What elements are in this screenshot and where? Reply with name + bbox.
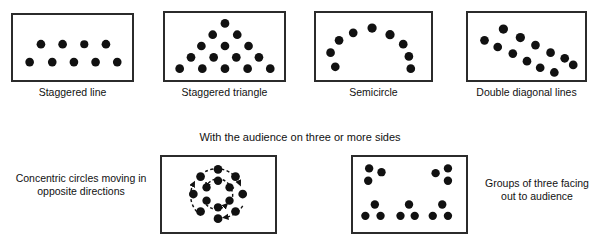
- dot: [361, 212, 369, 220]
- panel-concentric-circles: [160, 155, 277, 234]
- groups-of-three-diagram: [353, 157, 466, 232]
- dot: [231, 207, 240, 216]
- dot: [493, 43, 502, 52]
- caption-staggered-triangle: Staggered triangle: [163, 86, 286, 99]
- dot: [37, 40, 46, 49]
- dot: [523, 57, 532, 66]
- dot: [255, 53, 264, 62]
- figure-canvas: Staggered line: [0, 0, 599, 245]
- dot: [48, 58, 57, 67]
- dot: [196, 207, 205, 216]
- dot: [411, 212, 419, 220]
- staggered-triangle-diagram: [165, 13, 284, 80]
- caption-double-diagonal-lines: Double diagonal lines: [461, 86, 592, 99]
- dot: [371, 200, 379, 208]
- caption-staggered-line: Staggered line: [11, 86, 134, 99]
- dot: [209, 53, 218, 62]
- dot: [221, 19, 230, 28]
- dot: [243, 64, 252, 73]
- dot: [202, 183, 210, 191]
- dot: [196, 172, 205, 181]
- dot: [349, 28, 358, 37]
- dot: [444, 212, 452, 220]
- dot: [197, 42, 206, 51]
- dot: [58, 40, 67, 49]
- dot: [429, 212, 437, 220]
- dot: [326, 48, 335, 57]
- dot: [438, 200, 446, 208]
- dot: [91, 58, 100, 67]
- dot: [405, 200, 413, 208]
- dot: [80, 40, 88, 48]
- dot: [508, 49, 517, 58]
- section-title-three-or-more-sides: With the audience on three or more sides: [150, 131, 450, 144]
- dot: [396, 212, 404, 220]
- dot: [546, 48, 555, 57]
- dot: [233, 30, 242, 39]
- dot: [444, 177, 452, 185]
- outer-ring-dots: [189, 165, 247, 223]
- dot: [70, 58, 79, 67]
- dot: [405, 52, 414, 61]
- dot: [266, 64, 275, 73]
- panel-staggered-line: [11, 13, 134, 82]
- dot: [516, 33, 525, 42]
- panel-groups-of-three: [351, 155, 468, 234]
- dot: [221, 64, 230, 73]
- dot: [225, 183, 233, 191]
- dot: [406, 64, 415, 73]
- panel-double-diagonal-lines: [466, 11, 587, 82]
- dot: [536, 63, 545, 72]
- dot: [244, 42, 253, 51]
- dot: [25, 58, 34, 67]
- dot: [208, 30, 217, 39]
- dot: [189, 190, 198, 199]
- dot: [214, 203, 222, 211]
- panel-staggered-triangle: [163, 11, 286, 82]
- dot: [335, 36, 344, 45]
- caption-concentric-circles: Concentric circles moving in opposite di…: [8, 172, 154, 197]
- dot: [198, 64, 207, 73]
- dot: [214, 214, 223, 223]
- double-diagonal-lines-diagram: [468, 13, 585, 80]
- dot: [331, 62, 340, 71]
- panel-semicircle: [314, 11, 433, 82]
- dot: [385, 30, 394, 39]
- dot: [560, 54, 569, 63]
- semicircle-diagram: [316, 13, 431, 80]
- dot: [399, 40, 408, 49]
- dot: [531, 41, 540, 50]
- dot: [238, 190, 247, 199]
- dot: [214, 165, 223, 174]
- dot: [376, 212, 384, 220]
- dot: [187, 53, 196, 62]
- dot: [444, 164, 452, 172]
- caption-semicircle: Semicircle: [314, 86, 433, 99]
- concentric-circles-diagram: [162, 157, 275, 232]
- dot: [231, 172, 240, 181]
- dot: [102, 40, 111, 49]
- staggered-line-diagram: [13, 15, 132, 80]
- dot: [550, 68, 559, 77]
- dot: [232, 53, 241, 62]
- dot: [569, 61, 578, 70]
- dot: [225, 196, 233, 204]
- dot: [431, 169, 439, 177]
- dot: [202, 196, 210, 204]
- dot: [364, 177, 372, 185]
- dot: [367, 23, 376, 32]
- dot: [113, 58, 122, 67]
- dot: [214, 177, 222, 185]
- dot: [499, 24, 508, 33]
- dot: [377, 168, 385, 176]
- dot: [175, 64, 184, 73]
- dot: [480, 36, 489, 45]
- dot: [365, 164, 373, 172]
- caption-groups-of-three: Groups of three facing out to audience: [478, 177, 596, 202]
- dot: [221, 42, 230, 51]
